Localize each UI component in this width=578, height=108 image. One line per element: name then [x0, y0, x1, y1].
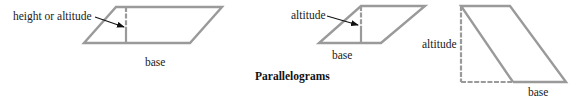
parallelogram-3-base-label: base [528, 86, 548, 98]
parallelogram-2: altitude base [291, 6, 425, 61]
parallelogram-1: height or altitude base [13, 7, 222, 68]
diagram-title: Parallelograms [255, 70, 330, 83]
parallelogram-2-altitude-label: altitude [291, 9, 326, 21]
parallelogram-1-base-label: base [145, 56, 165, 68]
parallelogram-3: altitude base [422, 6, 566, 98]
parallelogram-2-base-label: base [332, 49, 352, 61]
parallelogram-3-altitude-label: altitude [422, 38, 457, 50]
parallelogram-1-altitude-label: height or altitude [13, 10, 92, 23]
parallelogram-2-outline [319, 6, 425, 43]
parallelogram-1-outline [84, 7, 222, 43]
parallelogram-3-outline [461, 6, 566, 82]
parallelograms-diagram: height or altitude base altitude base al… [0, 0, 578, 108]
